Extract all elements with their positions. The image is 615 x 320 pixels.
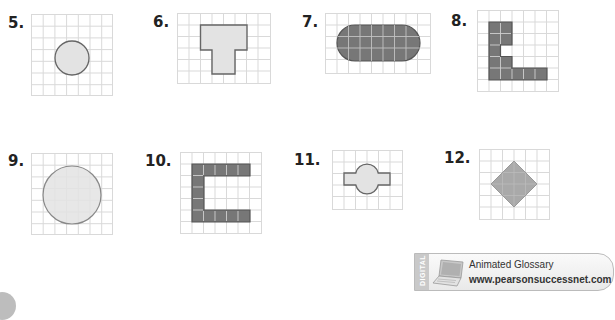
laptop-icon: [431, 258, 467, 288]
digital-label: DIGITAL: [419, 252, 426, 290]
digital-tab: DIGITAL: [415, 254, 429, 290]
animated-glossary-link[interactable]: DIGITAL Animated Glossary www.pearsonsuc…: [414, 253, 614, 291]
problem-number-11: 11.: [294, 151, 321, 169]
problem-number-9: 9.: [8, 152, 24, 170]
figure-11-cross-bulge: [332, 150, 403, 210]
problem-number-12: 12.: [444, 149, 471, 167]
problem-number-7: 7.: [302, 13, 318, 31]
problem-number-10: 10.: [145, 152, 172, 170]
page-corner-badge: [0, 292, 16, 320]
problem-number-6: 6.: [153, 13, 169, 31]
glossary-url[interactable]: www.pearsonsuccessnet.com: [469, 274, 611, 285]
problem-number-5: 5.: [8, 14, 24, 32]
figure-5-circle: [31, 14, 113, 96]
figure-10-c-shape: [180, 152, 262, 234]
figure-7-stadium: [325, 13, 431, 74]
figure-8-l-shape: [477, 10, 559, 92]
figure-12-diamond: [479, 149, 550, 220]
problem-number-8: 8.: [451, 12, 467, 30]
figure-6-t-shape: [177, 13, 271, 84]
figure-9-circle: [31, 153, 113, 235]
glossary-title: Animated Glossary: [469, 259, 553, 270]
